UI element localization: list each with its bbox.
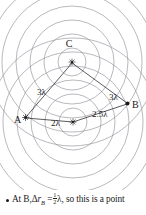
caption-text: At B,ΔrB =12λ, so this is a point <box>12 192 125 209</box>
distance-label-top-b: 3λ <box>109 92 119 102</box>
source-marker-top <box>69 59 76 66</box>
distance-label-bottom-b: 2.5λ <box>92 109 108 119</box>
distance-label-top-a: 3λ <box>37 87 47 97</box>
caption-equals: = <box>47 194 52 204</box>
point-label-c: C <box>66 38 73 49</box>
bullet-icon <box>6 199 9 202</box>
point-label-a: A <box>14 114 22 125</box>
distance-label-bottom-a: 2λ <box>51 118 61 128</box>
caption-r-subscript: B <box>41 199 45 206</box>
point-label-b: B <box>132 99 139 110</box>
figure-root: C A B 3λ 3λ 2λ 2.5λ At B,ΔrB =12λ, so th… <box>0 0 146 215</box>
caption-tail: , so this is a point <box>61 194 124 204</box>
point-marker-b <box>126 102 130 106</box>
point-marker-a <box>22 114 29 121</box>
source-marker-bottom <box>70 119 77 126</box>
wave-interference-diagram: C A B 3λ 3λ 2λ 2.5λ <box>0 0 146 190</box>
caption: At B,ΔrB =12λ, so this is a point <box>0 192 146 215</box>
caption-lead: At B, <box>12 194 32 204</box>
